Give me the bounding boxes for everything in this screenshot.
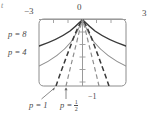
curve-label-p1: p = 1 bbox=[29, 101, 48, 110]
fraction-one-half: 12 bbox=[74, 99, 78, 113]
figure-container: t −3 3 0 −1 p = 8 p = 4 p = 1 p = 12 bbox=[0, 0, 159, 117]
curve-label-phalf-prefix: p = bbox=[60, 100, 74, 110]
fraction-denominator: 2 bbox=[74, 106, 78, 112]
label-arrows bbox=[42, 87, 68, 99]
y-axis-min-label: −1 bbox=[88, 93, 97, 101]
x-axis-min-label: −3 bbox=[24, 7, 34, 16]
origin-label: 0 bbox=[77, 3, 82, 12]
x-axis-max-label: 3 bbox=[142, 9, 147, 18]
curve-label-p8: p = 8 bbox=[8, 30, 27, 39]
plot-svg bbox=[0, 0, 159, 117]
corner-crop-mark: t bbox=[1, 2, 3, 10]
y-axis bbox=[80, 20, 86, 87]
curve-label-phalf: p = 12 bbox=[60, 99, 78, 113]
fraction-numerator: 1 bbox=[74, 99, 78, 106]
curve-label-p4: p = 4 bbox=[8, 48, 27, 57]
